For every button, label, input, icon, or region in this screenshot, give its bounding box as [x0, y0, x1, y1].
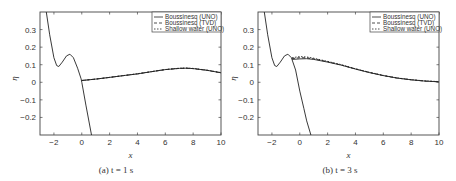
- x-tick-label: 4: [353, 138, 358, 147]
- y-tick-label: 0.1: [243, 61, 255, 70]
- x-axis-label: x: [346, 150, 351, 160]
- series-line: [292, 57, 439, 82]
- panel-caption: (a) t = 1 s: [99, 165, 134, 175]
- x-tick-label: 8: [191, 138, 196, 147]
- y-tick-label: 0: [32, 78, 37, 87]
- panel-b: −20246810−0.2−0.100.10.20.3Boussinesq (U…: [228, 12, 444, 175]
- x-tick-label: 4: [135, 138, 140, 147]
- y-tick-label: −0.2: [20, 113, 36, 122]
- y-axis-label: η: [228, 76, 238, 81]
- series-line: [82, 68, 221, 80]
- legend: Boussinesq (UNO)Boussinesq (TVD)Shallow …: [152, 12, 224, 33]
- y-tick-label: 0: [250, 78, 255, 87]
- x-tick-label: −2: [267, 138, 277, 147]
- series-line: [292, 59, 439, 82]
- legend: Boussinesq (UNO)Boussinesq (TVD)Shallow …: [370, 12, 442, 33]
- x-tick-label: 6: [163, 138, 168, 147]
- x-tick-label: 2: [107, 138, 112, 147]
- y-tick-label: 0.2: [25, 43, 37, 52]
- x-tick-label: 0: [80, 138, 85, 147]
- y-tick-label: −0.2: [238, 113, 254, 122]
- panel-a: −20246810−0.2−0.100.10.20.3Boussinesq (U…: [9, 12, 226, 175]
- x-tick-label: 0: [298, 138, 303, 147]
- series-line: [264, 12, 311, 135]
- series-line: [46, 12, 91, 135]
- x-tick-label: 8: [409, 138, 414, 147]
- series-line: [292, 58, 439, 82]
- x-tick-label: 6: [381, 138, 386, 147]
- x-tick-label: −2: [49, 138, 59, 147]
- y-tick-label: −0.1: [238, 96, 254, 105]
- y-tick-label: 0.1: [25, 61, 37, 70]
- panel-caption: (b) t = 3 s: [322, 165, 358, 175]
- legend-entry: Shallow water (UNO): [383, 25, 442, 33]
- x-axis-label: x: [128, 150, 133, 160]
- legend-entry: Shallow water (UNO): [165, 25, 224, 33]
- y-tick-label: 0.2: [243, 43, 255, 52]
- y-tick-label: −0.1: [20, 96, 36, 105]
- y-tick-label: 0.3: [243, 26, 255, 35]
- y-axis-label: η: [9, 76, 19, 81]
- x-tick-label: 10: [217, 138, 226, 147]
- figure: −20246810−0.2−0.100.10.20.3Boussinesq (U…: [0, 0, 456, 181]
- x-tick-label: 10: [435, 138, 444, 147]
- y-tick-label: 0.3: [25, 26, 37, 35]
- x-tick-label: 2: [325, 138, 330, 147]
